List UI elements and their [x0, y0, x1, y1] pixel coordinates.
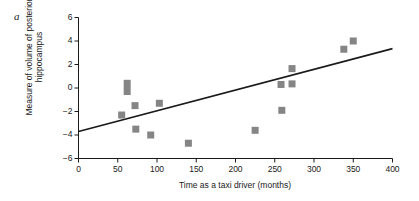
data-point [350, 38, 357, 45]
x-axis-label: Time as a taxi driver (months) [78, 180, 392, 190]
data-point [278, 107, 285, 114]
data-point [289, 65, 296, 72]
y-axis-ticks [75, 18, 79, 159]
data-points [118, 38, 357, 147]
y-tick-label: −4 [49, 130, 73, 139]
x-tick-label: 50 [103, 165, 133, 174]
y-tick-label: 0 [49, 83, 73, 92]
data-point [132, 126, 139, 133]
y-tick-label: 2 [49, 60, 73, 69]
data-point [278, 81, 285, 88]
x-tick-label: 100 [142, 165, 172, 174]
y-tick-label: −2 [49, 107, 73, 116]
data-point [124, 80, 131, 95]
data-point [132, 102, 139, 109]
x-axis-ticks [79, 159, 393, 163]
x-tick-label: 350 [338, 165, 368, 174]
data-point [340, 46, 347, 53]
y-tick-label: 6 [49, 13, 73, 22]
data-point [252, 127, 259, 134]
data-point [147, 132, 154, 139]
data-point [289, 80, 296, 87]
x-tick-label: 150 [181, 165, 211, 174]
x-tick-label: 400 [378, 165, 408, 174]
data-point [118, 112, 125, 119]
y-tick-label: −6 [49, 154, 73, 163]
x-tick-label: 300 [299, 165, 329, 174]
y-tick-label: 4 [49, 36, 73, 45]
x-tick-label: 0 [64, 165, 94, 174]
figure-panel-a: a Measure of volume of posterior hippoca… [0, 0, 419, 201]
x-tick-label: 250 [260, 165, 290, 174]
x-tick-label: 200 [221, 165, 251, 174]
data-point [156, 100, 163, 107]
data-point [185, 140, 192, 147]
